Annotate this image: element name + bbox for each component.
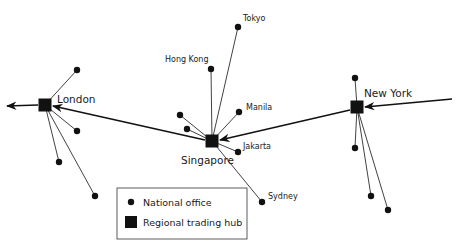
national-office-dot: [352, 75, 358, 81]
national-office-dot: [259, 199, 265, 205]
national-office-dot: [92, 193, 98, 199]
spoke-line: [211, 69, 212, 141]
office-label-hongkong: Hong Kong: [165, 55, 209, 64]
legend-national-office-label: National office: [143, 197, 212, 208]
flow-arrow-incoming-east-to-newyork: [365, 99, 452, 107]
regional-hub-icon: [125, 216, 137, 228]
spoke-line: [45, 105, 95, 196]
hub-label-london: London: [57, 93, 96, 105]
hub-label-singapore: Singapore: [181, 154, 234, 166]
national-office-dot: [208, 66, 214, 72]
spoke-line: [212, 27, 238, 141]
flow-arrow-london-to-outgoing-west: [7, 105, 38, 106]
legend: National office Regional trading hub: [117, 188, 247, 239]
hub-label-newyork: New York: [364, 87, 413, 99]
national-office-icon: [128, 199, 134, 205]
national-office-dot: [235, 24, 241, 30]
office-label-sydney: Sydney: [268, 192, 298, 201]
office-label-manila: Manila: [246, 103, 272, 112]
national-office-dot: [184, 126, 190, 132]
hub-square-singapore: [206, 135, 219, 148]
spoke-line: [357, 107, 371, 196]
flow-arrow-singapore-to-london: [53, 106, 205, 140]
spoke-line: [45, 105, 59, 162]
national-office-dot: [177, 112, 183, 118]
trading-network-diagram: TokyoHong KongManilaJakartaSydneyLondonS…: [0, 0, 474, 248]
national-office-dot: [236, 109, 242, 115]
office-label-tokyo: Tokyo: [242, 14, 266, 23]
hub-square-london: [39, 99, 52, 112]
national-office-dot: [74, 67, 80, 73]
national-office-dot: [352, 145, 358, 151]
hub-square-newyork: [351, 101, 364, 114]
national-office-dot: [235, 149, 241, 155]
national-office-dot: [56, 159, 62, 165]
flow-arrows: [7, 99, 452, 140]
legend-regional-hub-label: Regional trading hub: [143, 217, 242, 228]
national-office-dot: [368, 193, 374, 199]
regional-hubs: [39, 99, 364, 148]
national-office-dot: [385, 207, 391, 213]
office-connection-lines: [45, 27, 388, 210]
national-office-dot: [74, 128, 80, 134]
office-label-jakarta: Jakarta: [242, 142, 271, 151]
